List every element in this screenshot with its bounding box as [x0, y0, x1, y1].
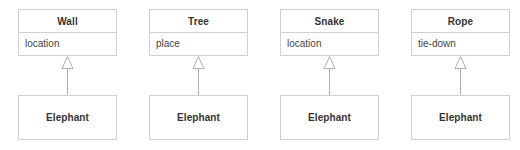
- child-class-box[interactable]: Elephant: [411, 95, 510, 140]
- parent-class-attribute: location: [19, 33, 116, 55]
- generalization-arrowhead-icon: [324, 57, 335, 69]
- generalization-connector: [18, 55, 117, 97]
- child-class-box[interactable]: Elephant: [280, 95, 379, 140]
- uml-generalization-group: Rope tie-down Elephant: [411, 0, 512, 150]
- generalization-arrowhead-icon: [193, 57, 204, 69]
- generalization-connector: [411, 55, 510, 97]
- child-class-name: Elephant: [308, 112, 351, 123]
- uml-generalization-group: Tree place Elephant: [149, 0, 250, 150]
- generalization-connector: [280, 55, 379, 97]
- uml-class-diagram-canvas: Wall location Elephant Tree place Elepha…: [0, 0, 520, 150]
- generalization-arrowhead-icon: [455, 57, 466, 69]
- parent-class-box[interactable]: Rope tie-down: [411, 9, 510, 56]
- child-class-name: Elephant: [439, 112, 482, 123]
- uml-generalization-group: Snake location Elephant: [280, 0, 381, 150]
- parent-class-attribute: tie-down: [412, 33, 509, 55]
- parent-class-name: Snake: [281, 10, 378, 33]
- child-class-name: Elephant: [177, 112, 220, 123]
- parent-class-name: Wall: [19, 10, 116, 33]
- child-class-box[interactable]: Elephant: [18, 95, 117, 140]
- parent-class-attribute: place: [150, 33, 247, 55]
- generalization-connector: [149, 55, 248, 97]
- parent-class-box[interactable]: Tree place: [149, 9, 248, 56]
- generalization-arrowhead-icon: [62, 57, 73, 69]
- parent-class-name: Rope: [412, 10, 509, 33]
- parent-class-attribute: location: [281, 33, 378, 55]
- parent-class-box[interactable]: Wall location: [18, 9, 117, 56]
- parent-class-name: Tree: [150, 10, 247, 33]
- child-class-box[interactable]: Elephant: [149, 95, 248, 140]
- uml-generalization-group: Wall location Elephant: [18, 0, 119, 150]
- parent-class-box[interactable]: Snake location: [280, 9, 379, 56]
- child-class-name: Elephant: [46, 112, 89, 123]
